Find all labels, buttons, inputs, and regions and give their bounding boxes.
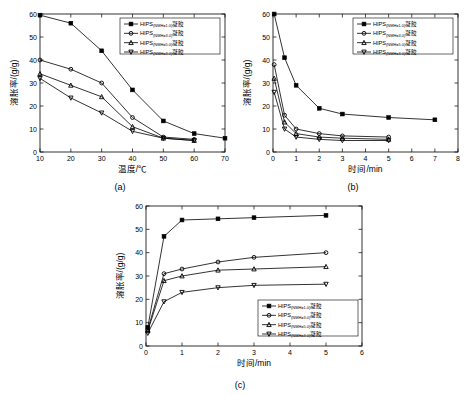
x-tick-label: 3 (252, 349, 256, 356)
x-tick-label: 20 (67, 155, 75, 162)
y-tick-label: 30 (262, 80, 270, 87)
y-tick-label: 10 (262, 126, 270, 133)
chart-b-svg: 0123456780102030405060时间/min溶胀率/(g/g)HIP… (233, 4, 469, 184)
y-tick-label: 30 (29, 80, 37, 87)
caption-c: (c) (220, 380, 260, 390)
data-series (272, 76, 391, 141)
chart-legend: HIPS(NMH=1.0)凝胶HIPS(NMH=3.0)凝胶HIPS(NMH=5… (353, 18, 453, 56)
data-point-marker (362, 22, 366, 26)
y-tick-label: 40 (29, 57, 37, 64)
data-point-marker (387, 116, 391, 120)
data-point-marker (340, 112, 344, 116)
data-point-marker (223, 136, 227, 140)
y-tick-label: 60 (135, 203, 143, 210)
y-tick-label: 60 (29, 11, 37, 18)
x-axis-label: 时间/min (237, 358, 271, 368)
x-tick-label: 2 (317, 155, 321, 162)
x-tick-label: 5 (387, 155, 391, 162)
data-point-marker (433, 118, 437, 122)
x-tick-label: 7 (433, 155, 437, 162)
data-point-marker (180, 218, 184, 222)
data-point-marker (272, 12, 276, 16)
data-point-marker (294, 83, 298, 87)
data-point-marker (162, 234, 166, 238)
x-tick-label: 50 (159, 155, 167, 162)
y-tick-label: 0 (139, 343, 143, 350)
x-tick-label: 40 (129, 155, 137, 162)
chart-c-svg: 01234560102030405060时间/min溶胀率/(g/g)HIPS(… (100, 196, 380, 381)
x-tick-label: 70 (221, 155, 229, 162)
x-tick-label: 4 (364, 155, 368, 162)
data-point-marker (324, 264, 328, 268)
x-tick-label: 5 (324, 349, 328, 356)
x-axis-label: 温度/℃ (118, 164, 147, 174)
data-point-marker (161, 119, 165, 123)
x-tick-label: 3 (340, 155, 344, 162)
data-point-marker (317, 106, 321, 110)
x-tick-label: 4 (288, 349, 292, 356)
x-tick-label: 60 (190, 155, 198, 162)
chart-a-svg: 102030405060700102030405060温度/℃溶胀率/(g/g)… (0, 4, 236, 184)
y-tick-label: 0 (33, 149, 37, 156)
chart-legend: HIPS(NMH=1.0)凝胶HIPS(NMH=3.0)凝胶HIPS(NMH=5… (120, 18, 220, 56)
series-line (40, 74, 194, 141)
x-tick-label: 1 (294, 155, 298, 162)
y-tick-label: 10 (29, 126, 37, 133)
data-point-marker (216, 217, 220, 221)
caption-b: (b) (333, 182, 373, 192)
x-tick-label: 30 (98, 155, 106, 162)
y-tick-label: 50 (135, 226, 143, 233)
x-tick-label: 1 (180, 349, 184, 356)
y-tick-label: 20 (29, 103, 37, 110)
y-tick-label: 0 (266, 149, 270, 156)
y-axis-label: 溶胀率/(g/g) (9, 59, 19, 106)
x-tick-label: 8 (456, 155, 460, 162)
data-point-marker (324, 213, 328, 217)
x-tick-label: 10 (36, 155, 44, 162)
series-line (274, 78, 388, 139)
chart-legend: HIPS(NMH=1.0)凝胶HIPS(NMH=3.0)凝胶HIPS(NMH=5… (258, 300, 358, 338)
series-line (40, 60, 194, 139)
y-tick-label: 20 (135, 296, 143, 303)
data-point-marker (267, 304, 271, 308)
caption-a: (a) (100, 182, 140, 192)
series-line (40, 78, 194, 140)
y-tick-label: 50 (29, 34, 37, 41)
y-tick-label: 60 (262, 11, 270, 18)
y-tick-label: 40 (262, 57, 270, 64)
x-tick-label: 6 (360, 349, 364, 356)
y-tick-label: 40 (135, 249, 143, 256)
x-tick-label: 0 (144, 349, 148, 356)
series-line (274, 65, 388, 137)
x-axis-label: 时间/min (348, 164, 382, 174)
y-tick-label: 20 (262, 103, 270, 110)
data-series (38, 77, 197, 143)
data-point-marker (100, 49, 104, 53)
chart-panel-c: 01234560102030405060时间/min溶胀率/(g/g)HIPS(… (100, 196, 380, 381)
data-point-marker (69, 21, 73, 25)
figure-root: 102030405060700102030405060温度/℃溶胀率/(g/g)… (0, 0, 471, 395)
y-axis-label: 溶胀率/(g/g) (242, 59, 252, 106)
y-tick-label: 10 (135, 319, 143, 326)
y-tick-label: 30 (135, 273, 143, 280)
y-tick-label: 50 (262, 34, 270, 41)
chart-panel-a: 102030405060700102030405060温度/℃溶胀率/(g/g)… (0, 4, 236, 184)
data-series (38, 72, 197, 143)
data-point-marker (129, 22, 133, 26)
chart-panel-b: 0123456780102030405060时间/min溶胀率/(g/g)HIP… (233, 4, 469, 184)
x-tick-label: 6 (410, 155, 414, 162)
data-point-marker (252, 216, 256, 220)
data-point-marker (38, 13, 42, 17)
data-point-marker (283, 56, 287, 60)
data-point-marker (192, 132, 196, 136)
x-tick-label: 0 (271, 155, 275, 162)
data-point-marker (131, 88, 135, 92)
x-tick-label: 2 (216, 349, 220, 356)
y-axis-label: 溶胀率/(g/g) (115, 252, 125, 299)
